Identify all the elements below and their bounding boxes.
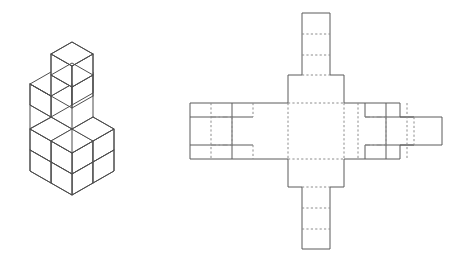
- figure-root: [0, 0, 459, 263]
- geometry-figure-canvas: [0, 0, 459, 263]
